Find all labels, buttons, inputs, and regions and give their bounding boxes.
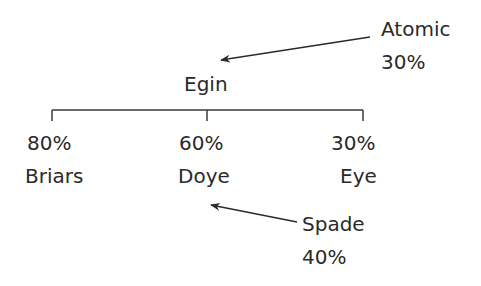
child-briars-percent: 80% bbox=[27, 131, 71, 155]
child-eye-percent: 30% bbox=[331, 131, 375, 155]
root-node-label: Egin bbox=[184, 72, 228, 96]
atomic-arrow bbox=[221, 37, 370, 60]
spade-arrow bbox=[211, 205, 297, 222]
annotation-spade-label: Spade bbox=[302, 212, 365, 236]
annotation-atomic-percent: 30% bbox=[381, 50, 425, 74]
diagram-lines bbox=[0, 0, 481, 286]
annotation-atomic-label: Atomic bbox=[381, 17, 450, 41]
annotation-spade-percent: 40% bbox=[302, 245, 346, 269]
child-briars-label: Briars bbox=[25, 164, 83, 188]
child-eye-label: Eye bbox=[340, 164, 377, 188]
tree-bracket bbox=[52, 110, 363, 121]
child-doye-percent: 60% bbox=[179, 131, 223, 155]
child-doye-label: Doye bbox=[178, 164, 230, 188]
